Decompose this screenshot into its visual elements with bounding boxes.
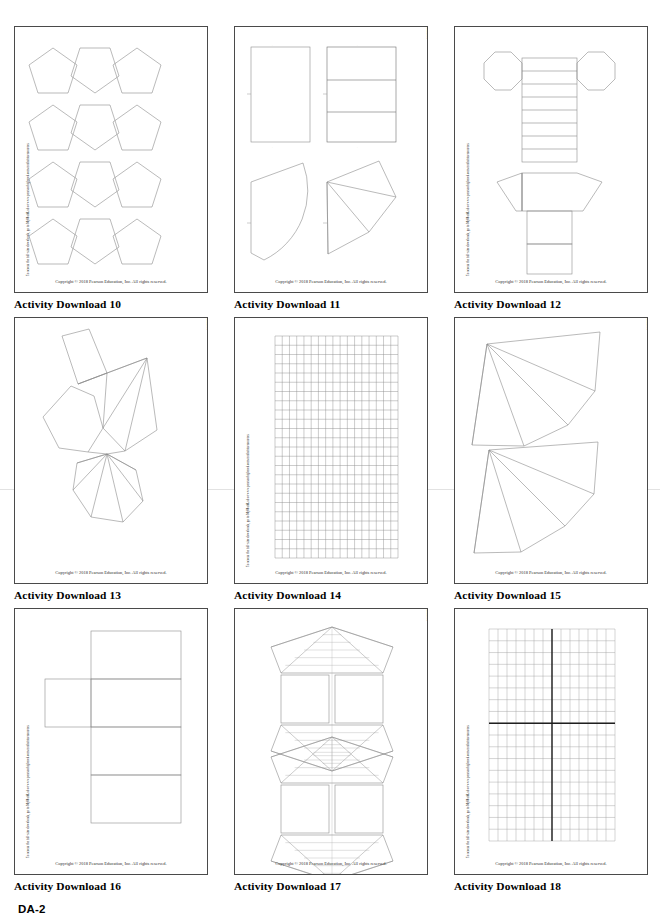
activity-download-cell: To access the full-size downloads, go to… [14, 317, 222, 602]
artwork-coordinate-grid [455, 609, 648, 875]
copyright-line: Copyright © 2018 Pearson Education, Inc.… [235, 279, 427, 284]
svg-text:.: . [357, 146, 358, 149]
worksheet-page-11[interactable]: . . . . [234, 26, 428, 293]
vertical-access-note: To access the full-size downloads, go to… [206, 317, 208, 330]
page-caption: Activity Download 16 [14, 879, 222, 893]
page-caption: Activity Download 14 [234, 588, 442, 602]
worksheet-page-12[interactable]: To access the full-size downloads, go to… [454, 26, 648, 293]
worksheet-page-16[interactable]: To access the full-size downloads, go to… [14, 608, 208, 875]
artwork-octagonal-prism-net [455, 27, 648, 293]
vertical-access-note: To access the full-size downloads, go to… [426, 608, 428, 621]
vertical-access-note: To access the full-size downloads, go to… [646, 317, 648, 330]
copyright-line: Copyright © 2018 Pearson Education, Inc.… [455, 279, 647, 284]
page-caption: Activity Download 13 [14, 588, 222, 602]
page-caption: Activity Download 10 [14, 297, 222, 311]
artwork-polyhedron-net [15, 318, 208, 584]
activity-download-cell: To access the full-size downloads, go to… [14, 26, 222, 311]
activity-download-cell: To access the full-size downloads, go to… [234, 317, 442, 602]
copyright-line: Copyright © 2018 Pearson Education, Inc.… [235, 570, 427, 575]
vertical-access-note: To access the full-size downloads, go to… [246, 434, 250, 567]
artwork-pentagon-tiling [15, 27, 208, 293]
artwork-two-fan-nets [455, 318, 648, 584]
page-caption: Activity Download 12 [454, 297, 660, 311]
vertical-access-note: To access the full-size downloads, go to… [466, 143, 470, 276]
page-caption: Activity Download 15 [454, 588, 660, 602]
artwork-pyramid-nets [235, 609, 428, 875]
activity-download-grid: To access the full-size downloads, go to… [14, 26, 654, 893]
artwork-square-grid [235, 318, 428, 584]
svg-text:.: . [272, 44, 273, 47]
worksheet-sheet: To access the full-size downloads, go to… [0, 0, 660, 923]
activity-download-cell: To access the full-size downloads, go to… [234, 608, 442, 893]
worksheet-page-18[interactable]: To access the full-size downloads, go to… [454, 608, 648, 875]
copyright-line: Copyright © 2018 Pearson Education, Inc.… [15, 861, 207, 866]
worksheet-page-10[interactable]: To access the full-size downloads, go to… [14, 26, 208, 293]
page-caption: Activity Download 18 [454, 879, 660, 893]
worksheet-page-13[interactable]: To access the full-size downloads, go to… [14, 317, 208, 584]
page-caption: Activity Download 11 [234, 297, 442, 311]
worksheet-page-14[interactable]: To access the full-size downloads, go to… [234, 317, 428, 584]
vertical-access-note: To access the full-size downloads, go to… [426, 26, 428, 39]
activity-download-cell: To access the full-size downloads, go to… [14, 608, 222, 893]
copyright-line: Copyright © 2018 Pearson Education, Inc.… [15, 570, 207, 575]
artwork-rectangles-and-sectors: . . . . [235, 27, 428, 293]
worksheet-page-17[interactable]: To access the full-size downloads, go to… [234, 608, 428, 875]
artwork-box-net [15, 609, 208, 875]
copyright-line: Copyright © 2018 Pearson Education, Inc.… [455, 570, 647, 575]
svg-text:.: . [357, 44, 358, 47]
worksheet-page-15[interactable]: To access the full-size downloads, go to… [454, 317, 648, 584]
copyright-line: Copyright © 2018 Pearson Education, Inc.… [455, 861, 647, 866]
activity-download-cell: To access the full-size downloads, go to… [454, 317, 660, 602]
page-caption: Activity Download 17 [234, 879, 442, 893]
copyright-line: Copyright © 2018 Pearson Education, Inc.… [235, 861, 427, 866]
svg-text:.: . [272, 146, 273, 149]
activity-download-cell: To access the full-size downloads, go to… [454, 608, 660, 893]
activity-download-cell: To access the full-size downloads, go to… [454, 26, 660, 311]
activity-download-cell: . . . . [234, 26, 442, 311]
vertical-access-note: To access the full-size downloads, go to… [466, 725, 470, 858]
folio-number: DA-2 [18, 903, 46, 915]
copyright-line: Copyright © 2018 Pearson Education, Inc.… [15, 279, 207, 284]
vertical-access-note: To access the full-size downloads, go to… [26, 725, 30, 858]
vertical-access-note: To access the full-size downloads, go to… [26, 143, 30, 276]
